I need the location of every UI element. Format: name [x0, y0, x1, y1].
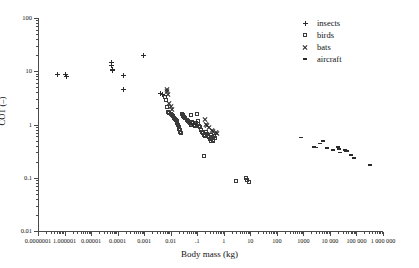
- x-tick-major: [144, 232, 145, 236]
- x-tick-minor: [51, 232, 52, 234]
- x-tick-label: 0.00001: [81, 237, 101, 244]
- legend-label: birds: [317, 29, 334, 41]
- x-tick-minor: [290, 232, 291, 234]
- x-tick-label: 100: [272, 237, 281, 244]
- data-point-bats: [192, 121, 197, 126]
- x-tick-major: [38, 232, 39, 236]
- x-tick-minor: [205, 232, 206, 234]
- x-tick-minor: [302, 232, 303, 234]
- chart-legend: insectsbirdsbatsaircraft: [305, 17, 415, 65]
- data-point-bats: [215, 131, 220, 136]
- x-tick-minor: [293, 232, 294, 234]
- legend-marker-cross-icon: [303, 45, 308, 50]
- x-tick-label: .1: [195, 237, 200, 244]
- data-point-aircraft: [368, 164, 372, 166]
- x-tick-minor: [236, 232, 237, 234]
- x-tick-minor: [216, 232, 217, 234]
- x-tick-minor: [355, 232, 356, 234]
- x-tick-minor: [269, 232, 270, 234]
- data-point-aircraft: [321, 140, 325, 142]
- x-tick-label: 0.01: [165, 237, 176, 244]
- x-tick-minor: [54, 232, 55, 234]
- x-tick-minor: [163, 232, 164, 234]
- data-point-birds: [195, 112, 199, 116]
- data-point-aircraft: [352, 157, 356, 159]
- x-tick-major: [383, 232, 384, 236]
- x-tick-label: 0.0000001: [25, 237, 51, 244]
- y-tick-label: 1: [0, 121, 32, 128]
- x-tick-minor: [160, 232, 161, 234]
- data-point-aircraft: [314, 147, 318, 149]
- x-tick-minor: [348, 232, 349, 234]
- x-tick-major: [171, 232, 172, 236]
- x-tick-minor: [57, 232, 58, 234]
- x-tick-major: [118, 232, 119, 236]
- x-tick-major: [224, 232, 225, 236]
- x-tick-minor: [152, 232, 153, 234]
- x-tick-label: 0.0001: [109, 237, 126, 244]
- x-tick-minor: [183, 232, 184, 234]
- data-point-birds: [179, 131, 183, 135]
- x-tick-label: 0.001: [137, 237, 151, 244]
- x-tick-minor: [63, 232, 64, 234]
- x-tick-minor: [196, 232, 197, 234]
- x-tick-minor: [242, 232, 243, 234]
- x-tick-minor: [157, 232, 158, 234]
- data-point-aircraft: [325, 147, 329, 149]
- x-tick-label: 1: [222, 237, 225, 244]
- data-point-aircraft: [318, 143, 322, 145]
- x-tick-minor: [116, 232, 117, 234]
- data-point-aircraft: [331, 149, 335, 151]
- x-tick-minor: [189, 232, 190, 234]
- x-tick-major: [250, 232, 251, 236]
- data-point-birds: [234, 179, 238, 183]
- x-tick-minor: [343, 232, 344, 234]
- data-point-birds: [202, 154, 206, 158]
- x-tick-minor: [213, 232, 214, 234]
- legend-label: bats: [317, 41, 331, 53]
- data-point-bats: [166, 92, 171, 97]
- x-tick-minor: [375, 232, 376, 234]
- x-tick-minor: [136, 232, 137, 234]
- x-tick-minor: [295, 232, 296, 234]
- x-tick-major: [356, 232, 357, 236]
- legend-entry-insects: insects: [305, 17, 415, 29]
- y-tick-label: 0.1: [0, 174, 32, 181]
- legend-label: insects: [317, 17, 340, 29]
- x-tick-minor: [346, 232, 347, 234]
- data-point-aircraft: [299, 137, 303, 139]
- legend-entry-birds: birds: [305, 29, 415, 41]
- x-tick-minor: [107, 232, 108, 234]
- x-tick-major: [303, 232, 304, 236]
- x-tick-minor: [134, 232, 135, 234]
- x-tick-minor: [322, 232, 323, 234]
- x-tick-minor: [81, 232, 82, 234]
- x-tick-minor: [249, 232, 250, 234]
- data-point-birds: [189, 113, 193, 117]
- x-tick-major: [330, 232, 331, 236]
- data-point-aircraft: [338, 152, 342, 154]
- x-tick-minor: [169, 232, 170, 234]
- x-tick-label: 1.000001: [53, 237, 76, 244]
- y-tick-label: 10: [0, 67, 32, 74]
- data-point-insects: [55, 72, 60, 77]
- x-tick-minor: [382, 232, 383, 234]
- x-tick-minor: [104, 232, 105, 234]
- x-tick-minor: [179, 232, 180, 234]
- x-tick-major: [277, 232, 278, 236]
- data-point-aircraft: [345, 150, 349, 152]
- y-tick-label: 0.01: [0, 227, 32, 234]
- x-tick-minor: [329, 232, 330, 234]
- x-tick-minor: [90, 232, 91, 234]
- data-point-insects: [64, 74, 69, 79]
- data-point-birds: [211, 139, 215, 143]
- x-tick-minor: [338, 232, 339, 234]
- x-tick-minor: [258, 232, 259, 234]
- x-tick-minor: [266, 232, 267, 234]
- data-point-birds: [247, 180, 251, 184]
- x-tick-major: [91, 232, 92, 236]
- x-tick-minor: [319, 232, 320, 234]
- x-tick-minor: [276, 232, 277, 234]
- x-tick-minor: [372, 232, 373, 234]
- legend-marker-dash-icon: [303, 58, 307, 60]
